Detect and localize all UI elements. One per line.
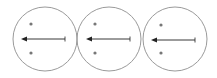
bottom-dot	[159, 51, 162, 54]
circle-group-1	[13, 7, 77, 71]
top-dot	[93, 22, 96, 25]
arrow-left-icon	[151, 38, 157, 43]
arrow-left-icon	[21, 37, 27, 42]
bottom-dot	[29, 51, 32, 54]
circle-outline	[143, 7, 207, 71]
circle-group-3	[143, 7, 207, 71]
arrow-left-icon	[86, 37, 92, 42]
top-dot	[159, 23, 162, 26]
bottom-dot	[93, 51, 96, 54]
top-dot	[29, 22, 32, 25]
circle-group-2	[77, 7, 141, 71]
circles-diagram	[0, 0, 217, 78]
